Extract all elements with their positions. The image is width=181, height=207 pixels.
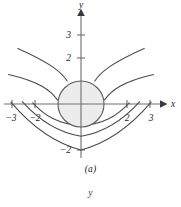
x-tick-label-3: 3 [148,113,154,123]
upper-curve-inner-right [95,48,144,81]
upper-curve-inner-left [18,48,67,81]
y-tick-label-2: 2 [66,53,71,63]
figure-container: −3 −2 2 3 3 2 −2 x y (a) y [0,0,181,207]
figure-caption: (a) [0,164,181,174]
upper-curve-middle-right [105,75,154,100]
next-figure-y-axis-label: y [0,188,181,198]
y-axis-label: y [78,0,84,10]
upper-curve-middle-left [9,75,58,100]
x-tick-label--3: −3 [5,113,16,123]
y-tick-label-3: 3 [65,30,71,40]
coordinate-plot: −3 −2 2 3 3 2 −2 x y [0,0,181,207]
x-axis-label: x [170,99,176,109]
x-axis-arrow-icon [160,100,168,108]
